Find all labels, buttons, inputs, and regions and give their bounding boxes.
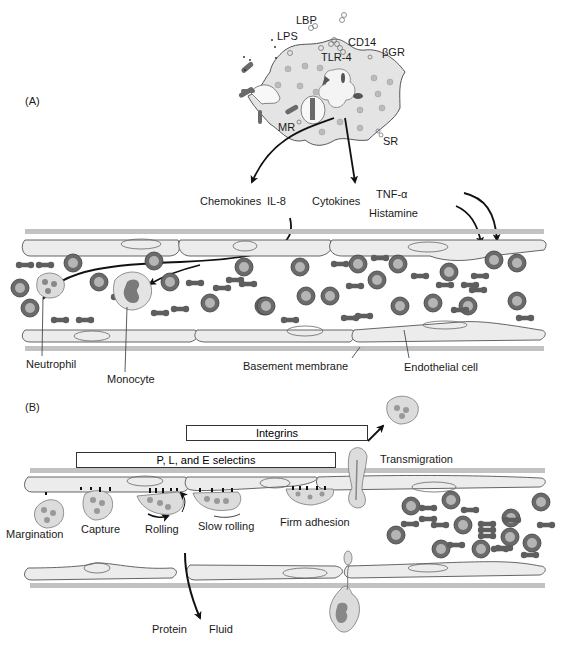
label-slow-rolling: Slow rolling bbox=[198, 521, 254, 532]
selectins-bar: P, L, and E selectins bbox=[76, 452, 336, 468]
blood-cells-b bbox=[387, 491, 555, 558]
integrins-bar: Integrins bbox=[186, 425, 368, 441]
label-lbp: LBP bbox=[296, 15, 317, 26]
blood-cells-a bbox=[11, 251, 534, 323]
emigrated-cell bbox=[387, 396, 419, 424]
label-il8: IL-8 bbox=[267, 196, 286, 207]
label-beta-gr: βGR bbox=[382, 47, 405, 58]
label-sr: SR bbox=[383, 136, 398, 147]
panel-a-label: (A) bbox=[25, 96, 40, 107]
label-margination: Margination bbox=[6, 529, 63, 540]
label-basement-membrane: Basement membrane bbox=[243, 361, 348, 372]
label-cd14: CD14 bbox=[348, 37, 376, 48]
label-histamine: Histamine bbox=[369, 208, 418, 219]
tissue-monocyte bbox=[330, 551, 360, 632]
monocyte-a bbox=[114, 272, 152, 310]
panel-b-label: (B) bbox=[25, 402, 40, 413]
firm-adhesion-cell bbox=[286, 489, 334, 505]
label-rolling: Rolling bbox=[145, 524, 179, 535]
diagram-canvas bbox=[0, 0, 563, 648]
label-tnf-alpha: TNF-α bbox=[376, 189, 407, 200]
macrophage-output-arrows bbox=[44, 118, 497, 298]
label-capture: Capture bbox=[81, 524, 120, 535]
label-lps: LPS bbox=[277, 31, 298, 42]
label-fluid: Fluid bbox=[209, 624, 233, 635]
label-tlr4: TLR-4 bbox=[321, 52, 352, 63]
label-endothelial-cell: Endothelial cell bbox=[404, 362, 478, 373]
label-neutrophil: Neutrophil bbox=[26, 359, 76, 370]
label-mr: MR bbox=[278, 122, 295, 133]
label-monocyte: Monocyte bbox=[107, 374, 155, 385]
label-chemokines: Chemokines bbox=[200, 196, 261, 207]
slow-rolling-cell bbox=[193, 492, 241, 517]
neutrophil-a bbox=[37, 273, 65, 298]
label-firm-adhesion: Firm adhesion bbox=[280, 517, 350, 528]
label-protein: Protein bbox=[152, 624, 187, 635]
macrophage bbox=[238, 13, 405, 146]
label-cytokines: Cytokines bbox=[312, 196, 360, 207]
capture-cell bbox=[83, 491, 113, 520]
rolling-cell bbox=[137, 492, 185, 517]
inflammation-diagram: (A) (B) LBP LPS CD14 TLR-4 βGR MR SR Che… bbox=[0, 0, 563, 648]
label-transmigration: Transmigration bbox=[380, 454, 453, 465]
margination-cell bbox=[34, 500, 63, 528]
